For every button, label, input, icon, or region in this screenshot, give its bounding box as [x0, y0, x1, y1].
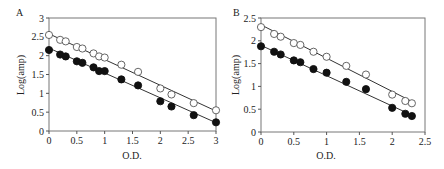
y-tick-label: 2.5: [32, 31, 45, 42]
x-tick-label: 1: [324, 136, 329, 147]
filled-circle-marker: [134, 82, 141, 89]
y-tick-label: 1: [39, 88, 44, 99]
filled-circle-marker: [323, 69, 330, 76]
x-tick-label: 2.5: [419, 136, 432, 147]
x-tick-label: 0: [47, 135, 52, 146]
open-circle-marker: [257, 24, 264, 31]
x-axis-label: O.D.: [316, 150, 335, 161]
open-circle-marker: [343, 62, 350, 69]
filled-circle-marker: [190, 112, 197, 119]
plot-frame: [261, 18, 425, 132]
filled-circle-marker: [290, 57, 297, 64]
filled-circle-marker: [45, 46, 52, 53]
filled-circle-marker: [157, 98, 164, 105]
x-tick-label: 2: [390, 136, 395, 147]
x-axis-label: O.D.: [122, 150, 141, 161]
open-circle-marker: [134, 68, 141, 75]
x-axis-ticks: 00.511.522.53: [47, 131, 219, 146]
y-tick-label: 0: [251, 127, 256, 138]
panel-b: B 00.511.522.5 00.511.522.5 O.D. Log(amp…: [230, 7, 431, 161]
open-circle-marker: [323, 53, 330, 60]
open-circle-marker: [310, 48, 317, 55]
chart-canvas: A 00.511.522.53 00.511.522.53 O.D. Log(a…: [0, 0, 444, 169]
filled-circle-marker: [257, 43, 264, 50]
filled-circle-marker: [310, 65, 317, 72]
x-tick-label: 0.5: [288, 136, 301, 147]
open-circle-marker: [168, 91, 175, 98]
x-tick-label: 0.5: [71, 135, 84, 146]
open-circle-marker: [290, 39, 297, 46]
open-circle-marker: [297, 41, 304, 48]
open-circle-marker: [157, 85, 164, 92]
filled-circle-marker: [62, 53, 69, 60]
panel-label: A: [16, 7, 24, 18]
y-tick-label: 0.5: [244, 104, 257, 115]
x-tick-label: 1: [102, 135, 107, 146]
open-circle-marker: [408, 100, 415, 107]
y-axis-ticks: 00.511.522.5: [244, 13, 262, 138]
filled-circle-marker: [101, 68, 108, 75]
y-tick-label: 2.5: [244, 13, 257, 24]
data-series: [45, 31, 219, 126]
x-tick-label: 2: [158, 135, 163, 146]
panel-label: B: [233, 7, 240, 18]
filled-circle-marker: [79, 59, 86, 66]
filled-circle-marker: [212, 119, 219, 126]
filled-circle-marker: [168, 103, 175, 110]
open-circle-marker: [118, 61, 125, 68]
panel-a: A 00.511.522.53 00.511.522.53 O.D. Log(a…: [15, 7, 220, 161]
y-tick-label: 2: [39, 50, 44, 61]
y-axis-label: Log(amp): [230, 55, 242, 95]
y-axis-label: Log(amp): [15, 55, 27, 95]
filled-circle-marker: [297, 59, 304, 66]
open-circle-marker: [79, 45, 86, 52]
open-circle-marker: [362, 71, 369, 78]
x-tick-label: 2.5: [182, 135, 195, 146]
open-circle-marker: [45, 31, 52, 38]
open-circle-marker: [101, 54, 108, 61]
y-tick-label: 1.5: [244, 58, 257, 69]
x-axis-ticks: 00.511.522.5: [259, 132, 432, 147]
y-tick-label: 0.5: [32, 107, 45, 118]
data-series: [257, 24, 415, 120]
filled-circle-marker: [118, 76, 125, 83]
open-circle-marker: [190, 100, 197, 107]
x-tick-label: 3: [214, 135, 219, 146]
filled-circle-marker: [362, 86, 369, 93]
y-tick-label: 1: [251, 81, 256, 92]
x-tick-label: 0: [259, 136, 264, 147]
y-tick-label: 1.5: [32, 69, 45, 80]
open-circle-marker: [389, 91, 396, 98]
filled-circle-marker: [389, 104, 396, 111]
open-circle-marker: [62, 38, 69, 45]
y-tick-label: 3: [39, 13, 44, 24]
y-tick-label: 0: [39, 126, 44, 137]
open-circle-marker: [277, 33, 284, 40]
x-tick-label: 1.5: [353, 136, 366, 147]
axes-frame: [261, 18, 425, 132]
y-tick-label: 2: [251, 35, 256, 46]
filled-circle-marker: [343, 78, 350, 85]
x-tick-label: 1.5: [126, 135, 139, 146]
open-circle-marker: [212, 107, 219, 114]
figure: A 00.511.522.53 00.511.522.53 O.D. Log(a…: [0, 0, 444, 169]
filled-circle-marker: [408, 112, 415, 119]
filled-circle-marker: [277, 51, 284, 58]
y-axis-ticks: 00.511.522.53: [32, 13, 50, 137]
